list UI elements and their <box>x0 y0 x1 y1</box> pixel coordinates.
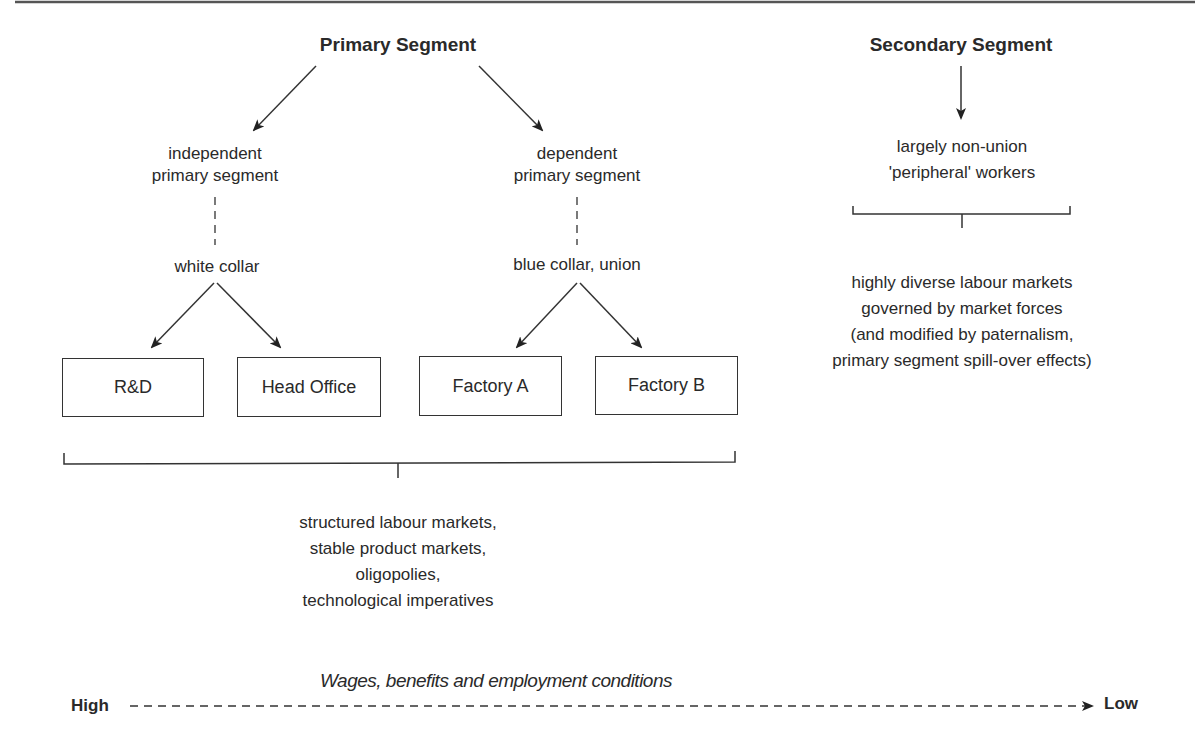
box-factory-a: Factory A <box>419 356 562 416</box>
primary-desc-line: technological imperatives <box>299 588 496 614</box>
secondary-desc-line: primary segment spill-over effects) <box>832 348 1092 374</box>
arrow-to-head-office <box>217 283 280 347</box>
workers-line1: largely non-union <box>889 134 1035 160</box>
blue-collar-label: blue collar, union <box>513 254 641 276</box>
dependent-line2: primary segment <box>514 165 641 187</box>
secondary-desc-line: (and modified by paternalism, <box>832 322 1092 348</box>
primary-desc-line: oligopolies, <box>299 562 496 588</box>
box-rnd: R&D <box>62 358 204 417</box>
independent-label: independent primary segment <box>152 143 279 187</box>
arrow-to-independent <box>254 66 316 130</box>
arrow-to-dependent <box>479 66 542 130</box>
secondary-desc-line: governed by market forces <box>832 296 1092 322</box>
secondary-desc-line: highly diverse labour markets <box>832 270 1092 296</box>
independent-line2: primary segment <box>152 165 279 187</box>
arrow-to-rnd <box>152 283 214 347</box>
primary-desc-line: stable product markets, <box>299 536 496 562</box>
primary-desc-line: structured labour markets, <box>299 510 496 536</box>
independent-line1: independent <box>152 143 279 165</box>
secondary-segment-title: Secondary Segment <box>870 34 1053 56</box>
axis-low-label: Low <box>1104 694 1138 714</box>
axis-title: Wages, benefits and employment condition… <box>320 670 672 692</box>
primary-segment-title: Primary Segment <box>320 34 476 56</box>
secondary-description: highly diverse labour markets governed b… <box>832 270 1092 374</box>
axis-high-label: High <box>71 696 109 716</box>
white-collar-label: white collar <box>174 256 259 278</box>
box-head-office: Head Office <box>237 357 381 417</box>
arrow-to-factory-a <box>517 283 577 347</box>
workers-label: largely non-union 'peripheral' workers <box>889 134 1035 186</box>
box-factory-b: Factory B <box>595 356 738 415</box>
primary-bracket <box>64 451 735 464</box>
workers-line2: 'peripheral' workers <box>889 160 1035 186</box>
secondary-bracket <box>853 206 1070 214</box>
primary-description: structured labour markets, stable produc… <box>299 510 496 614</box>
arrow-to-factory-b <box>580 283 641 347</box>
dependent-line1: dependent <box>514 143 641 165</box>
dependent-label: dependent primary segment <box>514 143 641 187</box>
